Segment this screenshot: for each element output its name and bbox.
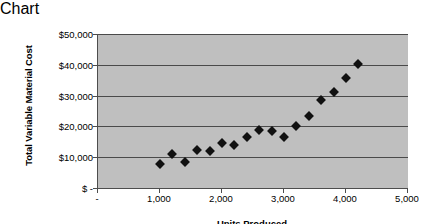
x-axis-tick-label: -: [67, 193, 127, 204]
data-point: [242, 132, 252, 142]
x-axis-tick-labels: -1,0002,0003,0004,0005,000: [0, 193, 443, 207]
plot-inner: [98, 34, 408, 188]
data-point: [229, 140, 239, 150]
y-axis-title: Total Variable Material Cost: [23, 21, 34, 191]
data-point: [279, 132, 289, 142]
y-axis-tick-label: $40,000: [39, 59, 93, 70]
y-axis-tick-label: $20,000: [39, 121, 93, 132]
data-point: [205, 146, 215, 156]
gridline: [98, 34, 408, 35]
x-axis-tick-label: 3,000: [253, 193, 313, 204]
x-axis-title: Units Produced: [97, 218, 407, 224]
gridline: [98, 157, 408, 158]
data-point: [217, 138, 227, 148]
data-point: [267, 126, 277, 136]
data-point: [291, 121, 301, 131]
x-axis-tick-label: 2,000: [191, 193, 251, 204]
data-point: [180, 157, 190, 167]
data-point: [155, 159, 165, 169]
gridline: [98, 96, 408, 97]
x-axis-tick-label: 1,000: [129, 193, 189, 204]
data-point: [341, 73, 351, 83]
y-axis-tick-label: $10,000: [39, 152, 93, 163]
y-axis-tick-label: $50,000: [39, 29, 93, 40]
x-axis-tick-label: 5,000: [377, 193, 437, 204]
gridline: [98, 126, 408, 127]
data-point: [304, 111, 314, 121]
y-axis-tick-label: $ -: [39, 183, 93, 194]
data-point: [353, 59, 363, 69]
scatter-chart: Total Variable Material Cost $ -$10,000$…: [0, 18, 443, 224]
data-point: [192, 145, 202, 155]
x-axis-tick-label: 4,000: [315, 193, 375, 204]
y-axis-tick-label: $30,000: [39, 90, 93, 101]
plot-area: [97, 34, 408, 189]
